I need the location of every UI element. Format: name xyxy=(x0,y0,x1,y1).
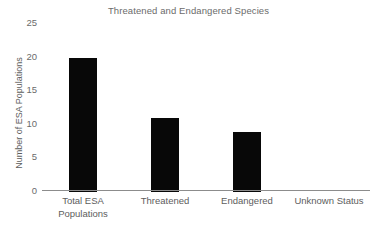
x-tick-label: Endangered xyxy=(206,195,288,208)
y-tick-label: 10 xyxy=(26,117,37,128)
plot-area: 0510152025 xyxy=(42,22,370,192)
bar xyxy=(151,118,179,192)
chart-title: Threatened and Endangered Species xyxy=(0,5,377,16)
x-tick-label: Total ESA Populations xyxy=(42,195,124,220)
y-tick-label: 25 xyxy=(26,17,37,28)
x-tick-label: Unknown Status xyxy=(288,195,370,208)
y-axis-title: Number of ESA Populations xyxy=(14,38,24,188)
x-tick-label: Threatened xyxy=(124,195,206,208)
y-tick-label: 15 xyxy=(26,84,37,95)
chart-screenshot: Threatened and Endangered Species Number… xyxy=(0,0,377,234)
y-tick-label: 5 xyxy=(32,151,37,162)
x-axis-line xyxy=(42,190,370,191)
bar xyxy=(69,58,97,192)
y-tick-label: 20 xyxy=(26,50,37,61)
bar xyxy=(233,132,261,192)
y-tick-label: 0 xyxy=(32,185,37,196)
